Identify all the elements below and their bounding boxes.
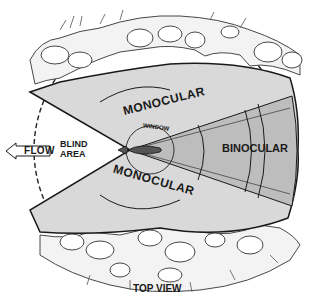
blind-area-line1: BLIND (60, 139, 88, 149)
flow-label: FLOW (24, 145, 55, 156)
bottom-bank-rocks (40, 225, 300, 292)
blind-area-label: BLIND AREA (60, 139, 88, 159)
fish-icon (118, 146, 162, 154)
binocular-label: BINOCULAR (222, 142, 288, 154)
top-view-caption: TOP VIEW (133, 283, 182, 294)
blind-area-line2: AREA (60, 149, 86, 159)
